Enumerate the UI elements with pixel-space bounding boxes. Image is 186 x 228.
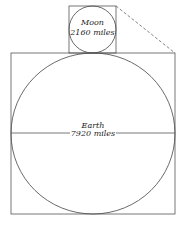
moon-name-label: Moon <box>80 18 104 27</box>
earth-diameter-label: 7920 miles <box>71 129 115 138</box>
moon-earth-diagram: Moon 2160 miles Earth 7920 miles <box>0 0 186 228</box>
moon-diameter-label: 2160 miles <box>69 28 114 37</box>
dashed-connector-line <box>116 6 175 53</box>
